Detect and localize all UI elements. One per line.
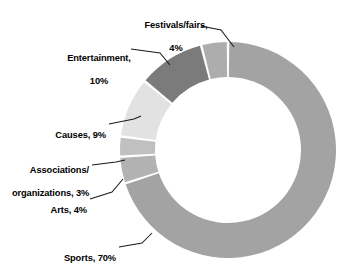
donut-chart: Festivals/fairs, 4% Entertainment, 10% C… (0, 0, 339, 276)
slice-label-arts-text: Arts, 4% (51, 205, 87, 215)
donut-slice-group (120, 42, 336, 258)
donut-slice-associations-organizations (120, 138, 155, 156)
slice-label-associations-line1: Associations/ (30, 165, 89, 175)
slice-label-entertainment-line1: Entertainment, (67, 53, 131, 63)
slice-label-festivals-line2: 4% (169, 43, 182, 53)
slice-label-sports-text: Sports, 70% (64, 253, 116, 263)
slice-label-entertainment-line2: 10% (90, 76, 108, 86)
slice-label-arts: Arts, 4% (11, 193, 87, 228)
leader-line-sports (119, 233, 152, 247)
slice-label-festivals-line1: Festivals/fairs, (144, 20, 207, 30)
slice-label-sports: Sports, 70% (33, 241, 116, 276)
leader-line-associations (92, 160, 125, 165)
slice-label-festivals: Festivals/fairs, 4% (126, 8, 216, 66)
slice-label-causes-text: Causes, 9% (55, 130, 106, 140)
slice-label-entertainment: Entertainment, 10% (51, 41, 137, 99)
slice-label-causes: Causes, 9% (28, 118, 106, 153)
leader-line-arts (90, 179, 123, 199)
